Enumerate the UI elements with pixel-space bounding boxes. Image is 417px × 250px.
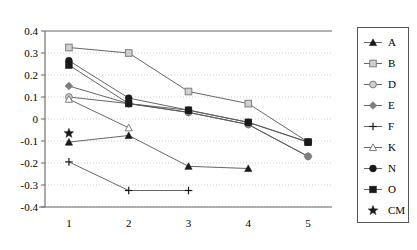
marker-open-square	[185, 88, 192, 95]
xtick-label: 3	[186, 217, 192, 229]
legend-item-E[interactable]: E	[358, 95, 408, 116]
marker-open-square	[370, 60, 377, 67]
series-N	[66, 57, 312, 145]
ytick-label: -0.4	[21, 201, 39, 213]
legend-label-F: F	[388, 116, 394, 137]
series-line-K	[69, 99, 129, 128]
marker-plus	[185, 187, 193, 195]
marker-filled-square	[185, 107, 192, 114]
ytick-label: 0.4	[24, 25, 38, 37]
series-F	[65, 158, 192, 194]
legend-label-N: N	[388, 158, 396, 179]
series-B	[66, 44, 312, 145]
ytick-label: -0.1	[21, 135, 38, 147]
legend-item-CM[interactable]: CM	[358, 200, 408, 221]
series-O	[66, 62, 312, 146]
legend-symbol-B	[358, 53, 388, 74]
marker-filled-star	[64, 128, 74, 137]
legend-symbol-D	[358, 74, 388, 95]
chart-legend: ABDEFKNOCM	[357, 27, 409, 223]
ytick-label: 0.1	[24, 91, 38, 103]
legend-item-D[interactable]: D	[358, 74, 408, 95]
legend-item-F[interactable]: F	[358, 116, 408, 137]
series-line-A	[69, 136, 248, 169]
line-chart: 0.40.30.20.10-0.1-0.2-0.3-0.412345	[0, 0, 345, 250]
series-line-F	[69, 162, 189, 191]
legend-label-K: K	[388, 137, 396, 158]
marker-open-circle	[370, 81, 377, 88]
legend-symbol-F	[358, 116, 388, 137]
legend-symbol-K	[358, 137, 388, 158]
legend-item-A[interactable]: A	[358, 32, 408, 53]
marker-filled-square	[245, 119, 252, 126]
xtick-label: 4	[246, 217, 252, 229]
legend-symbol-N	[358, 158, 388, 179]
series-D	[66, 94, 312, 160]
ytick-label: 0.2	[24, 69, 38, 81]
marker-plus	[125, 187, 133, 195]
legend-label-O: O	[388, 179, 396, 200]
plot-area: 0.40.30.20.10-0.1-0.2-0.3-0.412345	[0, 0, 340, 250]
series-line-E	[69, 86, 308, 156]
marker-open-triangle	[125, 124, 132, 131]
legend-label-CM: CM	[388, 200, 405, 221]
ytick-label: 0.3	[24, 47, 38, 59]
ytick-label: -0.3	[21, 179, 39, 191]
legend-label-E: E	[388, 95, 395, 116]
marker-filled-star	[368, 206, 378, 215]
legend-symbol-O	[358, 179, 388, 200]
marker-open-square	[125, 50, 132, 57]
legend-list: ABDEFKNOCM	[358, 28, 408, 222]
legend-item-O[interactable]: O	[358, 179, 408, 200]
marker-open-square	[66, 44, 73, 51]
series-CM	[64, 128, 74, 137]
marker-filled-circle	[370, 165, 377, 172]
marker-plus	[65, 158, 73, 166]
xtick-label: 1	[66, 217, 72, 229]
marker-open-square	[245, 100, 252, 107]
xtick-label: 2	[126, 217, 132, 229]
series-line-O	[69, 65, 308, 142]
marker-filled-square	[305, 139, 312, 146]
legend-label-B: B	[388, 53, 395, 74]
marker-filled-triangle	[125, 132, 132, 139]
series-K	[65, 96, 132, 131]
legend-item-N[interactable]: N	[358, 158, 408, 179]
marker-filled-square	[66, 62, 73, 69]
ytick-label: -0.2	[21, 157, 38, 169]
series-line-D	[69, 97, 308, 156]
marker-plus	[369, 123, 377, 131]
legend-item-B[interactable]: B	[358, 53, 408, 74]
marker-filled-diamond	[369, 102, 377, 110]
chart-root: 0.40.30.20.10-0.1-0.2-0.3-0.412345 ABDEF…	[0, 0, 417, 250]
ytick-label: 0	[33, 113, 39, 125]
legend-item-K[interactable]: K	[358, 137, 408, 158]
legend-label-D: D	[388, 74, 396, 95]
xtick-label: 5	[305, 217, 311, 229]
marker-filled-diamond	[65, 82, 73, 90]
legend-symbol-A	[358, 32, 388, 53]
series-A	[65, 132, 252, 172]
legend-label-A: A	[388, 32, 396, 53]
marker-filled-square	[125, 100, 132, 107]
legend-symbol-E	[358, 95, 388, 116]
legend-symbol-CM	[358, 200, 388, 221]
marker-filled-square	[370, 186, 377, 193]
